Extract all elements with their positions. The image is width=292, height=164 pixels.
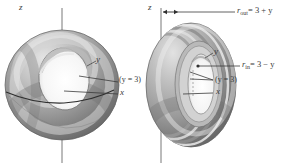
r-in-rhs: = 3 − y [250, 59, 274, 69]
left-y-equals-3-label: (y = 3) [119, 76, 141, 84]
left-y-axis-label: y [96, 55, 100, 64]
torus-diagram-svg [0, 0, 292, 164]
r-in-label: rin= 3 − y [242, 60, 274, 69]
right-y-equals-3-label: (y = 3) [215, 76, 237, 84]
r-out-arrow-right [174, 10, 178, 14]
left-torus-group [2, 8, 121, 163]
left-x-axis-label: x [120, 88, 124, 97]
figure-root: z y (y = 3) x z rout= 3 + y y rin= 3 − y… [0, 0, 292, 164]
r-out-label: rout= 3 + y [237, 6, 272, 15]
r-out-rhs: = 3 + y [248, 5, 272, 15]
right-x-axis-label: x [216, 87, 220, 96]
right-torus-hole [188, 54, 214, 114]
r-out-arrow-left [163, 10, 167, 14]
right-y-axis-label: y [214, 47, 218, 56]
left-z-axis-label: z [19, 3, 23, 12]
right-z-axis-label: z [148, 3, 152, 12]
right-torus-group [135, 8, 240, 163]
r-in-subscript: in [245, 64, 250, 70]
r-out-subscript: out [240, 10, 248, 16]
